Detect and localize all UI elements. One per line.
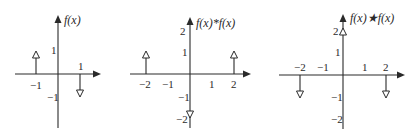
y-axis-arrow-icon — [187, 17, 194, 25]
y-tick: −2 — [176, 113, 188, 125]
x-tick: −2 — [139, 78, 151, 90]
impulse-down-icon — [77, 90, 84, 97]
y-axis-arrow-icon — [340, 14, 347, 22]
panel-correlation: f(x)★f(x) −2 −1 1 2 2 1 −1 −2 — [279, 11, 405, 129]
impulse-up-icon — [143, 51, 150, 58]
x-tick: −1 — [30, 79, 42, 91]
y-tick: −1 — [331, 91, 343, 103]
x-tick: 2 — [383, 61, 389, 73]
impulse-up-icon — [340, 28, 347, 35]
x-axis-arrow-icon — [93, 71, 101, 78]
x-axis-arrow-icon — [397, 72, 405, 79]
y-tick: 2 — [180, 25, 186, 37]
y-tick: 1 — [51, 44, 57, 56]
x-axis-arrow-icon — [243, 71, 251, 78]
x-tick: 1 — [78, 60, 84, 72]
impulse-up-icon — [231, 51, 238, 58]
impulse-up-icon — [33, 51, 40, 58]
x-tick: −1 — [317, 61, 329, 73]
figure: f(x) −1 1 1 −1 f(x)*f(x) −2 −1 1 2 2 1 −… — [0, 0, 414, 137]
y-tick: 1 — [335, 46, 341, 58]
x-tick: 1 — [209, 78, 215, 90]
y-tick: 2 — [333, 25, 339, 37]
y-tick: −2 — [331, 113, 343, 125]
y-tick: 1 — [182, 46, 188, 58]
axis-label: f(x) — [64, 13, 81, 27]
y-tick: −1 — [178, 91, 190, 103]
panel-convolution: f(x)*f(x) −2 −1 1 2 2 1 −1 −2 — [130, 16, 251, 128]
axis-label: f(x)*f(x) — [196, 16, 235, 30]
x-tick: −1 — [162, 78, 174, 90]
y-tick: −1 — [47, 91, 59, 103]
x-tick: 2 — [231, 78, 237, 90]
x-tick: 1 — [362, 61, 368, 73]
panel-f: f(x) −1 1 1 −1 — [15, 13, 101, 128]
y-axis-arrow-icon — [55, 15, 62, 23]
impulse-down-icon — [383, 91, 390, 98]
x-tick: −2 — [294, 61, 306, 73]
axis-label: f(x)★f(x) — [350, 11, 394, 25]
impulse-down-icon — [297, 91, 304, 98]
